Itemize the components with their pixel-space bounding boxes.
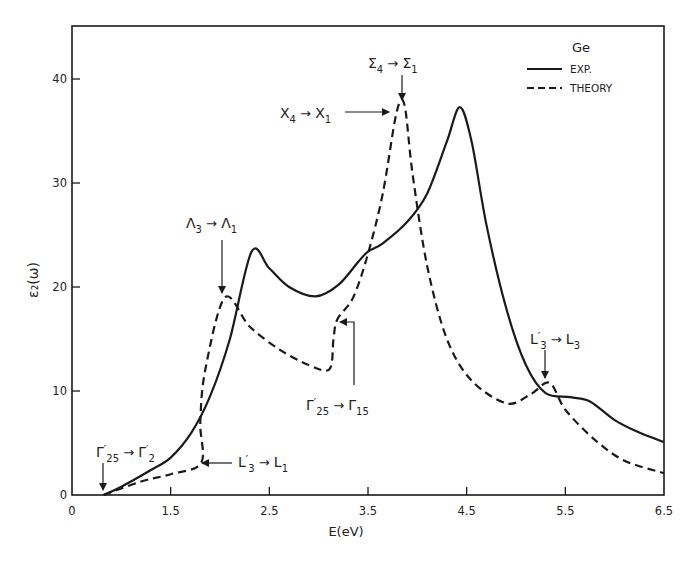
series-theory: [104, 99, 664, 495]
annotation: X4 → X1: [280, 105, 389, 125]
y-axis-label: ε₂(ω): [25, 262, 41, 298]
annotation: Σ4 → Σ1: [368, 55, 418, 100]
annotations: Γ′25 → Γ′2L′3 → L1Λ3 → Λ1Γ′25 → Γ15X4 → …: [96, 55, 580, 490]
annotation-label: Γ′25 → Γ′2: [96, 443, 155, 464]
x-tick-label: 0: [68, 504, 75, 518]
y-tick-label: 20: [52, 280, 67, 294]
data-series: [104, 99, 664, 495]
legend-title: Ge: [572, 40, 590, 55]
x-axis-label: E(eV): [328, 524, 363, 539]
plot-border: [72, 26, 664, 495]
annotation-label: L′3 → L1: [238, 453, 288, 474]
plot-frame: [72, 26, 664, 495]
x-tick-label: 5.5: [556, 504, 574, 518]
annotation-label: X4 → X1: [280, 105, 331, 125]
annotation-label: Λ3 → Λ1: [186, 215, 237, 235]
y-tick-label: 0: [60, 488, 67, 502]
x-tick-label: 6.5: [655, 504, 673, 518]
annotation: Λ3 → Λ1: [186, 215, 237, 293]
chart: 01.52.53.54.55.56.5010203040 Γ′25 → Γ′2L…: [0, 0, 696, 565]
annotation: L′3 → L1: [202, 453, 288, 474]
y-tick-label: 40: [52, 72, 67, 86]
y-tick-label: 30: [52, 176, 67, 190]
annotation-label: L′3 → L3: [530, 330, 580, 351]
x-tick-label: 3.5: [359, 504, 377, 518]
x-tick-label: 2.5: [260, 504, 278, 518]
y-tick-label: 10: [52, 384, 67, 398]
x-tick-label: 4.5: [458, 504, 476, 518]
annotation-label: Σ4 → Σ1: [368, 55, 418, 75]
legend-exp-label: EXP.: [570, 63, 592, 75]
legend: Ge EXP. THEORY: [527, 40, 613, 94]
x-tick-label: 1.5: [162, 504, 180, 518]
annotation: Γ′25 → Γ15: [306, 322, 369, 417]
annotation-label: Γ′25 → Γ15: [306, 396, 369, 417]
series-exp: [104, 107, 664, 495]
annotation: Γ′25 → Γ′2: [96, 443, 155, 490]
legend-theory-label: THEORY: [569, 82, 613, 94]
annotation: L′3 → L3: [530, 330, 580, 378]
